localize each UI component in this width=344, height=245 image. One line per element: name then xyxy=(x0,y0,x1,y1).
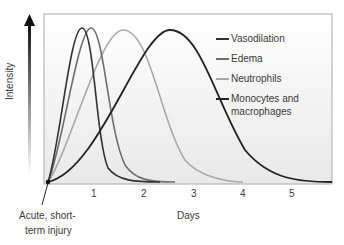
x-tick-4: 4 xyxy=(240,188,246,199)
legend-item-edema: Edema xyxy=(216,52,263,65)
legend-swatch xyxy=(216,38,229,40)
x-tick-3: 3 xyxy=(191,188,197,199)
legend-item-vasodilation: Vasodilation xyxy=(216,32,285,45)
x-axis-label: Days xyxy=(177,210,200,221)
chart-canvas xyxy=(0,0,344,245)
x-tick-1: 1 xyxy=(91,188,97,199)
intensity-arrow-shaft xyxy=(28,24,31,174)
legend-swatch xyxy=(216,58,229,60)
annotation-line1: Acute, short- xyxy=(19,210,76,221)
injury-leader-line xyxy=(42,183,48,205)
legend-swatch xyxy=(216,78,229,80)
legend-item-monocytes: Monocytes and macrophages xyxy=(216,92,299,118)
intensity-arrow-head xyxy=(24,14,35,26)
x-tick-5: 5 xyxy=(289,188,295,199)
legend-swatch xyxy=(216,98,229,100)
annotation-line2: term injury xyxy=(25,225,72,236)
legend-item-neutrophils: Neutrophils xyxy=(216,72,282,85)
y-axis-label: Intensity xyxy=(4,63,15,100)
legend-label-line1: Monocytes and xyxy=(231,93,299,104)
x-tick-2: 2 xyxy=(141,188,147,199)
legend-label-line2: macrophages xyxy=(231,106,292,117)
